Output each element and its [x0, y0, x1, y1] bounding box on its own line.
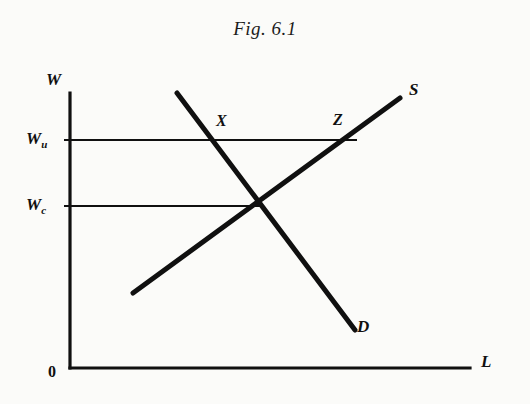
y-tick-label-wu: Wu: [26, 129, 47, 150]
y-tick-wu-main: W: [26, 129, 41, 148]
y-tick-wc-main: W: [26, 195, 41, 214]
origin-label: 0: [48, 363, 56, 381]
y-tick-wc-sub: c: [41, 204, 46, 216]
point-label-x: X: [216, 112, 227, 130]
y-axis-label: W: [46, 70, 61, 90]
y-tick-label-wc: Wc: [26, 195, 46, 216]
point-label-z: Z: [333, 111, 343, 129]
demand-curve-label: D: [357, 317, 369, 337]
diagram-plot-area: [0, 0, 530, 404]
x-axis-label: L: [481, 352, 491, 372]
supply-curve-label: S: [409, 80, 418, 100]
supply-curve: [133, 98, 400, 293]
y-tick-wu-sub: u: [41, 138, 47, 150]
figure-canvas: Fig. 6.1 W Wu Wc 0 L S D X Z: [0, 0, 530, 404]
demand-curve: [177, 93, 355, 330]
